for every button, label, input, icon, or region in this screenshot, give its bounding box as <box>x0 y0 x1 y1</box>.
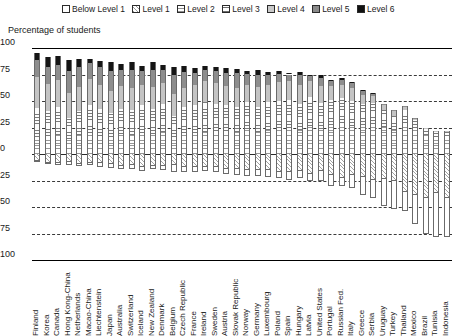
bar-column[interactable] <box>160 48 166 260</box>
bar-segment-bl1 <box>255 169 261 177</box>
bar-segment-l2 <box>234 132 240 154</box>
bar-column[interactable] <box>150 48 156 260</box>
bar-segment-l2 <box>171 137 177 154</box>
bar-column[interactable] <box>381 48 387 260</box>
x-axis-label: Indonesia <box>442 301 450 336</box>
bar-segment-l4 <box>160 83 166 104</box>
bar-column[interactable] <box>139 48 145 260</box>
bar-segment-l2 <box>108 137 114 154</box>
bar-column[interactable] <box>202 48 208 260</box>
x-axis-label: Japan <box>106 314 114 336</box>
bar-segment-l6 <box>234 69 240 74</box>
x-axis-label: Italy <box>347 321 355 336</box>
bar-column[interactable] <box>181 48 187 260</box>
bar-segment-l2 <box>97 136 103 154</box>
legend-swatch-l5-icon <box>312 5 320 13</box>
bar-segment-bl1 <box>339 177 345 185</box>
bar-segment-l6 <box>297 72 303 75</box>
bar-segment-l3 <box>318 103 324 129</box>
bar-column[interactable] <box>328 48 334 260</box>
x-axis-label: Hong Kong-China <box>64 272 72 336</box>
legend-label: Below Level 1 <box>72 5 125 14</box>
legend-item-l1: Level 1 <box>132 5 170 14</box>
bar-segment-bl1 <box>444 197 450 237</box>
bar-column[interactable] <box>265 48 271 260</box>
legend-item-l5: Level 5 <box>312 5 350 14</box>
legend-swatch-l6-icon <box>357 5 365 13</box>
bar-segment-l3 <box>66 118 72 139</box>
bar-segment-l4 <box>297 85 303 103</box>
bar-segment-l4 <box>339 85 345 98</box>
bar-column[interactable] <box>118 48 124 260</box>
bar-column[interactable] <box>433 48 439 260</box>
bar-column[interactable] <box>391 48 397 260</box>
bar-segment-l4 <box>202 81 208 102</box>
bar-segment-l5 <box>391 110 397 111</box>
bar-column[interactable] <box>34 48 40 260</box>
bar-segment-bl1 <box>45 162 51 165</box>
bar-column[interactable] <box>276 48 282 260</box>
bar-segment-l4 <box>391 111 397 115</box>
bar-segment-l5 <box>328 81 334 86</box>
bar-column[interactable] <box>370 48 376 260</box>
bar-column[interactable] <box>55 48 61 260</box>
bar-column[interactable] <box>76 48 82 260</box>
bar-segment-l4 <box>34 77 40 108</box>
bar-column[interactable] <box>412 48 418 260</box>
bar-column[interactable] <box>402 48 408 260</box>
bar-column[interactable] <box>349 48 355 260</box>
bar-column[interactable] <box>423 48 429 260</box>
x-axis-label: Austria <box>221 311 229 336</box>
bar-column[interactable] <box>45 48 51 260</box>
bar-segment-l1 <box>349 154 355 174</box>
bar-column[interactable] <box>192 48 198 260</box>
bar-segment-l1 <box>423 154 429 197</box>
bar-segment-l5 <box>87 63 93 79</box>
bar-column[interactable] <box>234 48 240 260</box>
bar-column[interactable] <box>108 48 114 260</box>
bar-segment-l5 <box>181 72 187 88</box>
bar-segment-l2 <box>349 126 355 154</box>
bar-segment-l1 <box>444 154 450 197</box>
bar-segment-l4 <box>97 85 103 109</box>
bar-segment-l2 <box>66 139 72 154</box>
bar-column[interactable] <box>87 48 93 260</box>
bar-segment-l4 <box>328 86 334 100</box>
bar-segment-l5 <box>76 67 82 86</box>
bar-column[interactable] <box>223 48 229 260</box>
bar-segment-l1 <box>118 154 124 165</box>
y-tick-label: 25 <box>0 118 28 127</box>
bar-segment-l2 <box>412 128 418 154</box>
bar-segment-l6 <box>55 56 61 64</box>
legend-swatch-bl1-icon <box>62 5 70 13</box>
bar-column[interactable] <box>444 48 450 260</box>
bar-segment-l2 <box>276 128 282 154</box>
x-axis-label: Belgium <box>169 307 177 336</box>
bar-column[interactable] <box>97 48 103 260</box>
bar-column[interactable] <box>297 48 303 260</box>
bar-column[interactable] <box>171 48 177 260</box>
bar-segment-bl1 <box>234 168 240 175</box>
bar-segment-l6 <box>339 78 345 80</box>
bar-segment-l1 <box>318 154 324 170</box>
bar-column[interactable] <box>339 48 345 260</box>
bar-segment-l5 <box>234 73 240 87</box>
x-axis-label: Brazil <box>421 316 429 336</box>
bar-column[interactable] <box>129 48 135 260</box>
bar-segment-l6 <box>223 68 229 73</box>
bar-segment-l1 <box>307 154 313 173</box>
bar-segment-l5 <box>307 76 313 81</box>
bar-column[interactable] <box>286 48 292 260</box>
bar-column[interactable] <box>244 48 250 260</box>
bar-segment-l4 <box>171 94 177 116</box>
bar-segment-l1 <box>391 154 397 180</box>
bar-segment-l5 <box>265 75 271 85</box>
x-axis-label: Norway <box>242 309 250 336</box>
bar-column[interactable] <box>360 48 366 260</box>
bar-column[interactable] <box>307 48 313 260</box>
bar-column[interactable] <box>213 48 219 260</box>
bar-segment-l6 <box>34 53 40 60</box>
bar-column[interactable] <box>66 48 72 260</box>
bar-column[interactable] <box>255 48 261 260</box>
bar-column[interactable] <box>318 48 324 260</box>
